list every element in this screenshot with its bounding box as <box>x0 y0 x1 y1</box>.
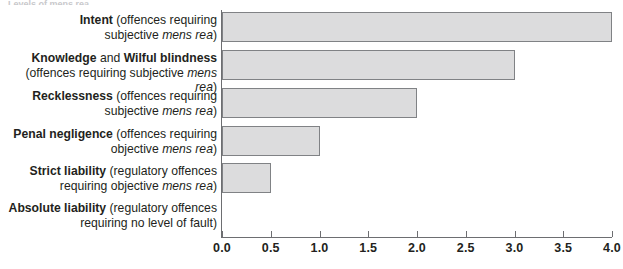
label-segment: (offences requiring <box>113 127 217 141</box>
label-segment: Strict liability <box>30 164 107 178</box>
y-axis-line <box>221 10 222 238</box>
category-label-line: Strict liability (regulatory offences <box>2 164 217 179</box>
x-axis-tick-mark <box>320 231 321 237</box>
x-axis-tick-mark <box>466 231 467 237</box>
x-axis-tick-mark <box>417 231 418 237</box>
x-axis-tick-mark <box>563 231 564 237</box>
category-label-line: Recklessness (offences requiring <box>2 89 217 104</box>
bar-chart-figure: Levels of mens rea Intent (offences requ… <box>0 0 623 269</box>
label-segment: (regulatory offences <box>106 164 217 178</box>
label-segment: ) <box>213 142 217 156</box>
x-axis-tick-mark <box>222 231 223 237</box>
label-segment: ) <box>213 179 217 193</box>
category-label-line: Knowledge and Wilful blindness <box>2 51 217 66</box>
category-label-line: requiring no level of fault) <box>2 216 217 231</box>
label-segment: requiring no level of fault) <box>80 216 217 230</box>
category-label: Penal negligence (offences requiringobje… <box>2 127 217 156</box>
label-segment: (offences requiring <box>113 13 217 27</box>
label-segment: Recklessness <box>32 89 113 103</box>
label-segment: Intent <box>80 13 113 27</box>
x-axis-tick-mark <box>368 231 369 237</box>
label-segment: (offences requiring <box>113 89 217 103</box>
category-label-line: requiring objective mens rea) <box>2 179 217 194</box>
label-segment: mens rea <box>162 104 213 118</box>
label-segment: ) <box>213 28 217 42</box>
label-segment: Absolute liability <box>9 201 107 215</box>
bar <box>222 163 271 193</box>
label-segment: mens rea <box>162 28 213 42</box>
label-segment: Wilful blindness <box>124 51 217 65</box>
x-axis-tick-mark <box>515 231 516 237</box>
label-segment: ) <box>213 104 217 118</box>
category-label-line: subjective mens rea) <box>2 28 217 43</box>
x-axis-tick-label: 4.0 <box>582 241 623 255</box>
x-axis-line <box>221 237 612 238</box>
label-segment: Penal negligence <box>13 127 113 141</box>
category-label: Recklessness (offences requiringsubjecti… <box>2 89 217 118</box>
bar <box>222 126 320 156</box>
label-segment: (regulatory offences <box>106 201 217 215</box>
label-segment: Knowledge <box>32 51 97 65</box>
category-label-line: objective mens rea) <box>2 142 217 157</box>
label-segment: subjective <box>105 104 163 118</box>
cut-off-caption-text: Levels of mens rea <box>8 0 158 5</box>
category-label: Absolute liability (regulatory offencesr… <box>2 201 217 230</box>
label-segment: requiring objective <box>60 179 162 193</box>
category-label-line: Intent (offences requiring <box>2 13 217 28</box>
bar <box>222 50 515 80</box>
x-axis-tick-mark <box>271 231 272 237</box>
bar <box>222 12 612 42</box>
category-label: Strict liability (regulatory offencesreq… <box>2 164 217 193</box>
label-segment: objective <box>111 142 163 156</box>
category-label-line: subjective mens rea) <box>2 104 217 119</box>
label-segment: mens rea <box>162 179 213 193</box>
bar <box>222 88 417 118</box>
x-axis-tick-mark <box>612 231 613 237</box>
label-segment: and <box>97 51 124 65</box>
category-label-line: Absolute liability (regulatory offences <box>2 201 217 216</box>
label-segment: subjective <box>105 28 163 42</box>
category-label-line: Penal negligence (offences requiring <box>2 127 217 142</box>
label-segment: (offences requiring subjective <box>26 66 188 80</box>
category-label: Intent (offences requiringsubjective men… <box>2 13 217 42</box>
label-segment: mens rea <box>162 142 213 156</box>
